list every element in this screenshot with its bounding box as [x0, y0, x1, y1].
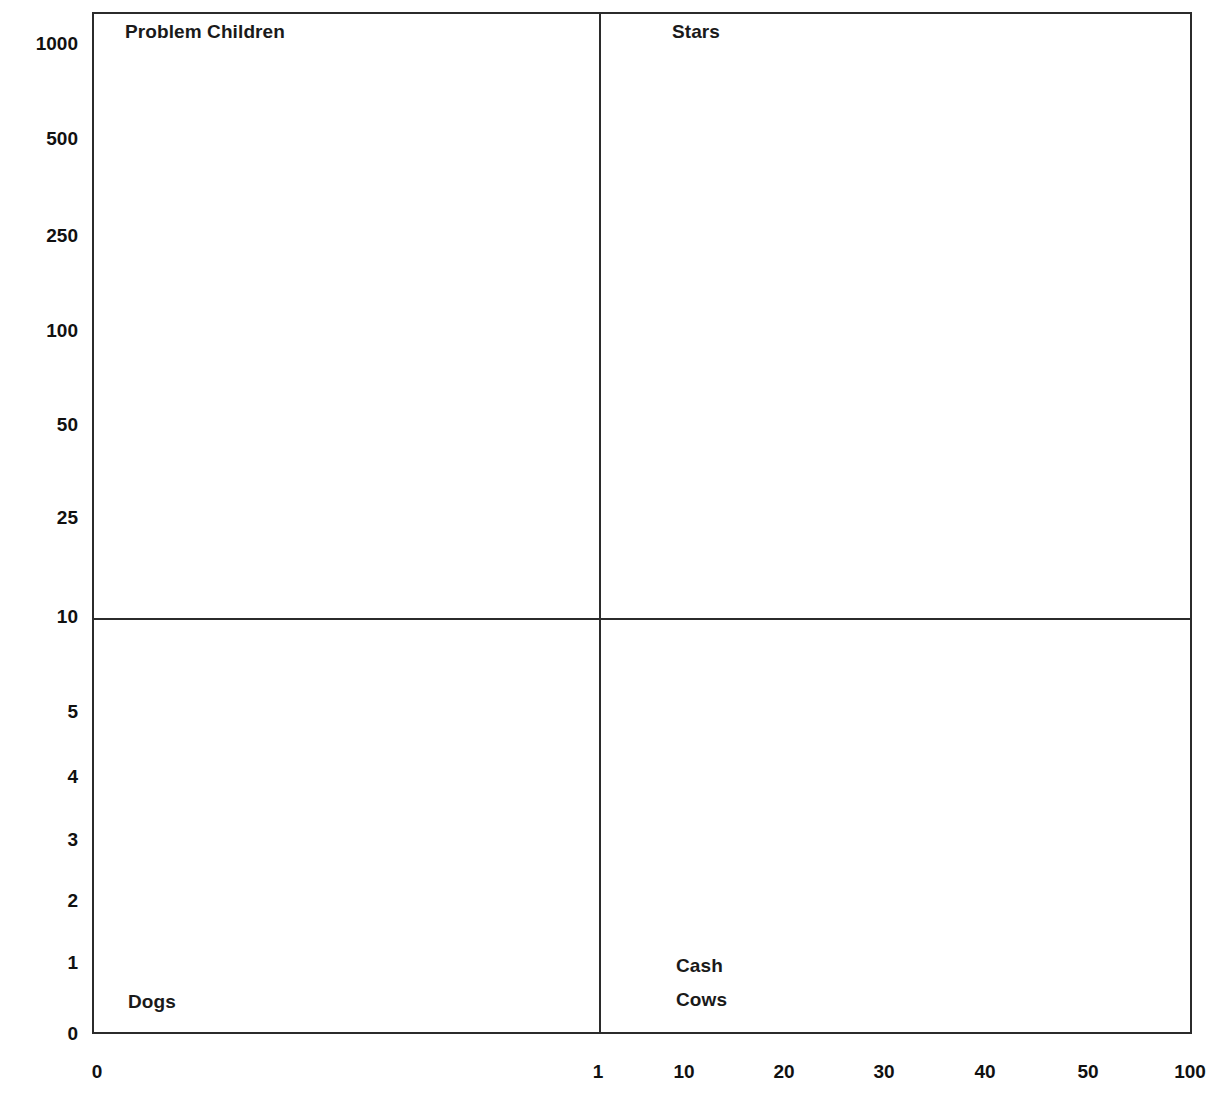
y-axis-tick-0: 0 [8, 1024, 78, 1044]
x-axis-tick-20: 20 [773, 1062, 794, 1082]
y-axis-tick-100: 100 [8, 321, 78, 341]
y-axis-tick-labels: 1000500250100502510543210 [0, 0, 78, 1111]
x-axis-tick-0: 0 [92, 1062, 103, 1082]
quadrant-label-dogs: Dogs [128, 985, 176, 1019]
x-axis-tick-100: 100 [1174, 1062, 1206, 1082]
x-axis-tick-50: 50 [1077, 1062, 1098, 1082]
quadrant-label-cash-cows-line2: Cows [676, 983, 727, 1017]
y-axis-tick-10: 10 [8, 607, 78, 627]
y-axis-tick-500: 500 [8, 129, 78, 149]
y-axis-tick-2: 2 [8, 891, 78, 911]
y-axis-tick-4: 4 [8, 767, 78, 787]
quadrant-label-stars: Stars [672, 15, 720, 49]
y-axis-tick-250: 250 [8, 226, 78, 246]
y-axis-tick-50: 50 [8, 415, 78, 435]
x-axis-tick-40: 40 [974, 1062, 995, 1082]
quadrant-divider-vertical [599, 14, 601, 1032]
y-axis-tick-3: 3 [8, 830, 78, 850]
x-axis-tick-10: 10 [673, 1062, 694, 1082]
quadrant-label-problem-children: Problem Children [125, 15, 285, 49]
y-axis-tick-5: 5 [8, 702, 78, 722]
bcg-matrix-chart: Problem Children Stars Dogs Cash Cows 10… [0, 0, 1224, 1111]
x-axis-tick-30: 30 [873, 1062, 894, 1082]
y-axis-tick-1000: 1000 [8, 34, 78, 54]
quadrant-label-cash-cows-line1: Cash [676, 949, 723, 983]
plot-area [92, 12, 1192, 1034]
quadrant-divider-horizontal [94, 618, 1190, 620]
y-axis-tick-25: 25 [8, 508, 78, 528]
x-axis-tick-1: 1 [593, 1062, 604, 1082]
y-axis-tick-1: 1 [8, 953, 78, 973]
